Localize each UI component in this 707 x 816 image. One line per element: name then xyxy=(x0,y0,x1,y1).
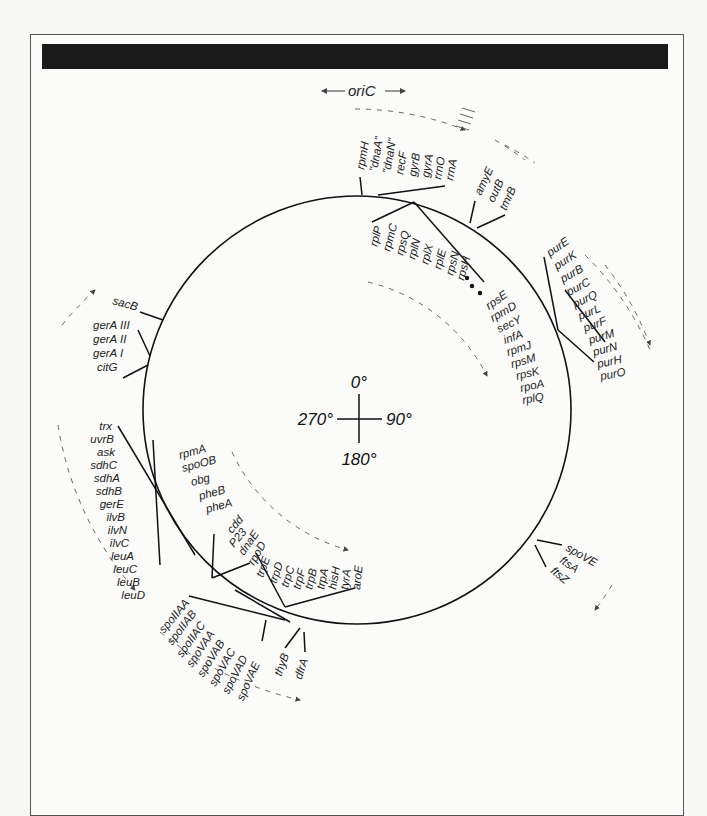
cluster-ribosomal: rplP rpmC rpsQ rplN rplX rplE rpsN rpsH … xyxy=(367,222,545,406)
svg-text:aroE: aroE xyxy=(350,564,365,590)
ellipsis-dots xyxy=(465,276,482,295)
svg-text:sdhC: sdhC xyxy=(90,459,118,471)
cluster-pur: purE purK purB purC purQ purL purF purM … xyxy=(543,235,626,382)
svg-text:citG: citG xyxy=(97,361,118,373)
compass-0: 0° xyxy=(351,373,367,392)
cluster-spoVE: spoVE ftsA ftsZ xyxy=(549,541,600,586)
svg-text:gerA I: gerA I xyxy=(93,347,124,359)
svg-text:leuA: leuA xyxy=(111,550,134,562)
cluster-spoOB: rpmA spoOB obg pheB pheA xyxy=(177,442,233,515)
svg-text:gerA II: gerA II xyxy=(93,333,127,345)
svg-text:uvrB: uvrB xyxy=(90,433,114,445)
oriC-label: oriC xyxy=(322,82,405,99)
svg-text:leuC: leuC xyxy=(113,563,137,575)
svg-text:obg: obg xyxy=(189,471,211,488)
cluster-trx: trx uvrB ask sdhC sdhA sdhB gerE ilvB il… xyxy=(90,420,145,601)
svg-text:ilvC: ilvC xyxy=(110,537,130,549)
compass: 0° 90° 180° 270° xyxy=(297,373,412,469)
cluster-thyB: thyB dfrA xyxy=(272,651,310,680)
svg-text:sdhA: sdhA xyxy=(94,472,121,484)
cluster-amyE: amyE outB tmrB xyxy=(472,165,518,212)
svg-text:trx: trx xyxy=(99,420,113,432)
compass-180: 180° xyxy=(341,450,376,469)
svg-text:oriC: oriC xyxy=(348,82,376,99)
svg-text:sacB: sacB xyxy=(111,294,139,312)
svg-text:sdhB: sdhB xyxy=(96,485,123,497)
svg-text:ilvN: ilvN xyxy=(108,524,128,536)
cluster-ori: rpmH "dnaA" "dnaN" recF gyrB gyrA rrnO r… xyxy=(354,135,459,181)
svg-text:rrnA: rrnA xyxy=(443,158,459,182)
svg-text:leuD: leuD xyxy=(121,589,145,601)
svg-text:rplQ: rplQ xyxy=(521,390,545,406)
svg-text:gerE: gerE xyxy=(100,498,125,510)
compass-270: 270° xyxy=(297,410,333,429)
svg-text:gerA III: gerA III xyxy=(93,319,130,331)
svg-text:ask: ask xyxy=(97,446,116,458)
compass-90: 90° xyxy=(386,410,412,429)
cluster-gerA: gerA III gerA II gerA I citG xyxy=(93,319,130,373)
svg-text:dfrA: dfrA xyxy=(292,657,310,681)
svg-text:ilvB: ilvB xyxy=(106,511,125,523)
svg-text:leuB: leuB xyxy=(117,576,140,588)
chromosome-circle xyxy=(143,196,571,624)
cluster-sacB: sacB xyxy=(111,294,139,312)
cluster-trp: trpE trpD trpC trpF trpB trpA hisH tyrA … xyxy=(254,554,365,590)
svg-text:thyB: thyB xyxy=(272,651,291,677)
cluster-spo: spoIIAA spoIIAB spoIIAC spoVAA spoVAB sp… xyxy=(156,596,262,702)
